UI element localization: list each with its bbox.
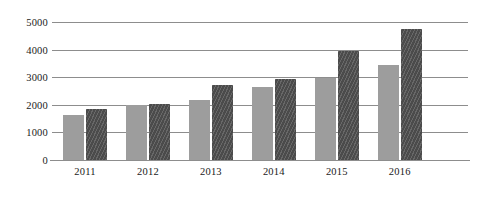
y-tick-label-5000: 5000 bbox=[26, 17, 48, 28]
bar-2016-series-2 bbox=[401, 29, 422, 160]
bar-2014-series-1 bbox=[252, 87, 273, 160]
x-tick-label-2016: 2016 bbox=[389, 166, 411, 177]
x-tick-label-2011: 2011 bbox=[74, 166, 95, 177]
bar-2012-series-1 bbox=[126, 105, 147, 160]
x-tick-label-2014: 2014 bbox=[263, 166, 285, 177]
bar-group-2014 bbox=[252, 22, 296, 160]
bar-2012-series-2 bbox=[149, 104, 170, 160]
bars-layer bbox=[62, 22, 468, 160]
tick-stub-1000 bbox=[52, 132, 62, 133]
bar-2011-series-1 bbox=[63, 115, 84, 160]
bar-2015-series-2 bbox=[338, 51, 359, 160]
y-tick-label-4000: 4000 bbox=[26, 44, 48, 55]
y-tick-label-0: 0 bbox=[43, 155, 48, 166]
tick-stub-2000 bbox=[52, 105, 62, 106]
bar-chart: 5000 4000 3000 2000 1000 0 2011201220132… bbox=[0, 0, 481, 198]
bar-group-2016 bbox=[378, 22, 422, 160]
y-tick-label-1000: 1000 bbox=[26, 127, 48, 138]
bar-group-2012 bbox=[126, 22, 170, 160]
y-tick-label-3000: 3000 bbox=[26, 72, 48, 83]
plot-area bbox=[62, 22, 468, 160]
bar-2015-series-1 bbox=[315, 78, 336, 160]
x-tick-label-2013: 2013 bbox=[200, 166, 222, 177]
y-axis-labels: 5000 4000 3000 2000 1000 0 bbox=[0, 22, 48, 160]
y-tick-label-2000: 2000 bbox=[26, 99, 48, 110]
bar-2014-series-2 bbox=[275, 79, 296, 160]
bar-group-2013 bbox=[189, 22, 233, 160]
tick-stub-3000 bbox=[52, 77, 62, 78]
bar-2013-series-2 bbox=[212, 85, 233, 160]
bar-2011-series-2 bbox=[86, 109, 107, 160]
x-axis-line bbox=[50, 160, 470, 161]
tick-stub-5000 bbox=[52, 22, 62, 23]
x-axis-labels: 201120122013201420152016 bbox=[0, 166, 481, 186]
tick-stub-4000 bbox=[52, 50, 62, 51]
bar-group-2015 bbox=[315, 22, 359, 160]
x-tick-label-2012: 2012 bbox=[137, 166, 159, 177]
x-tick-label-2015: 2015 bbox=[326, 166, 348, 177]
bar-2016-series-1 bbox=[378, 65, 399, 160]
bar-group-2011 bbox=[63, 22, 107, 160]
bar-2013-series-1 bbox=[189, 100, 210, 160]
